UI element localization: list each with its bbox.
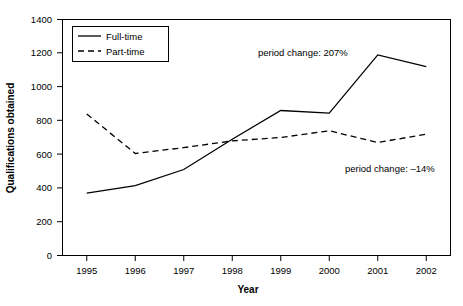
y-tick-label: 800 — [36, 115, 52, 126]
line-chart: 0 200 400 600 800 1000 — [0, 0, 463, 306]
x-tick-label: 1995 — [76, 265, 97, 276]
chart-legend: Full-time Part-time — [73, 27, 169, 62]
y-tick-label: 200 — [36, 216, 52, 227]
y-tick-label: 400 — [36, 182, 52, 193]
x-tick-label: 2000 — [319, 265, 340, 276]
x-tick-label: 1998 — [222, 265, 243, 276]
y-tick-label: 0 — [47, 250, 52, 261]
y-tick-label: 1200 — [31, 47, 52, 58]
y-tick-label: 1000 — [31, 81, 52, 92]
x-tick-label: 1999 — [270, 265, 291, 276]
x-axis-title: Year — [237, 284, 258, 295]
part-time-period-change-annotation: period change: –14% — [345, 163, 435, 174]
x-tick-label: 1996 — [125, 265, 146, 276]
y-axis-title: Qualifications obtained — [5, 83, 16, 194]
x-tick-label: 2002 — [416, 265, 437, 276]
chart-background — [0, 0, 463, 306]
y-tick-label: 600 — [36, 149, 52, 160]
y-tick-label: 1400 — [31, 14, 52, 25]
x-tick-label: 1997 — [173, 265, 194, 276]
legend-label-full-time: Full-time — [106, 31, 142, 42]
legend-label-part-time: Part-time — [106, 46, 145, 57]
full-time-period-change-annotation: period change: 207% — [258, 47, 348, 58]
chart-svg: 0 200 400 600 800 1000 — [0, 0, 463, 306]
x-tick-label: 2001 — [367, 265, 388, 276]
